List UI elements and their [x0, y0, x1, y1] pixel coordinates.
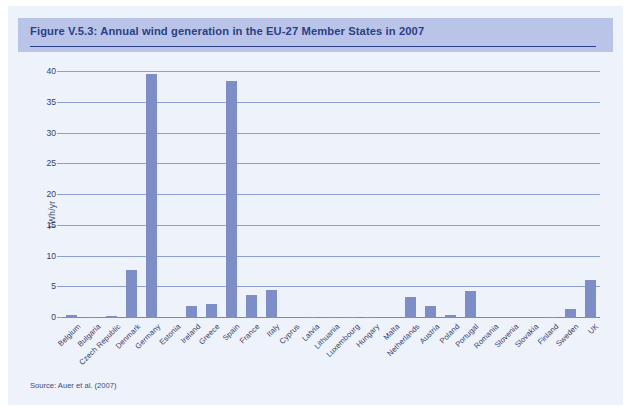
bar — [226, 81, 237, 318]
y-axis-tick-label: 5 — [51, 281, 56, 291]
bar — [146, 74, 157, 318]
bar — [306, 317, 317, 318]
bar — [565, 309, 576, 318]
bar — [266, 290, 277, 318]
y-axis-label: TWh/yr — [47, 175, 57, 255]
title-underline-rule — [30, 46, 596, 47]
bar — [405, 297, 416, 318]
bar — [445, 315, 456, 318]
x-axis-tick-label: UK — [586, 322, 600, 336]
bar — [425, 306, 436, 318]
bar — [106, 316, 117, 318]
page-title: Figure V.5.3: Annual wind generation in … — [30, 25, 424, 37]
x-axis-tick-label: Estonia — [157, 322, 182, 347]
bar — [585, 280, 596, 318]
bar — [206, 304, 217, 318]
bar — [126, 270, 137, 318]
bar — [186, 306, 197, 318]
figure-page: Figure V.5.3: Annual wind generation in … — [0, 0, 631, 411]
figure-title-band: Figure V.5.3: Annual wind generation in … — [18, 18, 613, 52]
x-axis-labels-group: BelgiumBulgariaCzech RepublicDenmarkGerm… — [62, 322, 600, 378]
bar — [246, 295, 257, 318]
bar — [326, 317, 337, 318]
x-axis-tick-label: Cyprus — [278, 322, 302, 346]
y-axis-tick-label: 25 — [46, 158, 56, 168]
y-axis-tick-label: 40 — [46, 66, 56, 76]
bar — [365, 317, 376, 318]
y-axis-tick-label: 35 — [46, 97, 56, 107]
chart-container: TWh/yr 0510152025303540 BelgiumBulgariaC… — [18, 60, 613, 378]
y-axis-tick-label: 30 — [46, 128, 56, 138]
y-axis-tick-label: 20 — [46, 189, 56, 199]
bar — [86, 317, 97, 318]
bar — [545, 317, 556, 318]
y-axis-tick-label: 15 — [46, 220, 56, 230]
x-axis-tick-label: Austria — [417, 322, 441, 346]
x-axis-tick-label: France — [238, 322, 262, 346]
x-axis-tick-label: Greece — [197, 322, 221, 346]
source-note: Source: Auer et al. (2007) — [30, 381, 117, 390]
bar — [345, 317, 356, 318]
bars-group — [62, 72, 600, 318]
y-axis-tick-label: 10 — [46, 251, 56, 261]
bar — [465, 291, 476, 318]
bar — [66, 315, 77, 318]
y-axis-tick-label: 0 — [51, 312, 56, 322]
plot-area: 0510152025303540 — [62, 72, 600, 318]
